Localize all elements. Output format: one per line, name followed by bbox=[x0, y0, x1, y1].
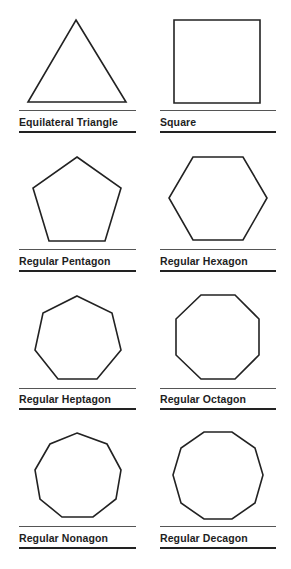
divider-thick bbox=[160, 131, 276, 133]
divider-thin bbox=[19, 110, 136, 111]
polygon-diagram bbox=[0, 0, 291, 569]
divider-thin bbox=[160, 526, 276, 527]
regular-nonagon-shape bbox=[35, 433, 121, 517]
regular-pentagon-shape bbox=[33, 157, 121, 241]
divider-thick bbox=[19, 131, 136, 133]
label-regular-nonagon: Regular Nonagon bbox=[19, 532, 108, 544]
divider-thick bbox=[160, 547, 276, 549]
label-regular-decagon: Regular Decagon bbox=[160, 532, 248, 544]
regular-heptagon-shape bbox=[35, 296, 121, 379]
divider-thin bbox=[19, 526, 136, 527]
label-regular-hexagon: Regular Hexagon bbox=[160, 255, 248, 267]
label-equilateral-triangle: Equilateral Triangle bbox=[19, 116, 118, 128]
divider-thin bbox=[160, 110, 276, 111]
regular-decagon-shape bbox=[173, 432, 263, 519]
divider-thick bbox=[19, 270, 136, 272]
label-regular-pentagon: Regular Pentagon bbox=[19, 255, 110, 267]
divider-thick bbox=[160, 270, 276, 272]
regular-octagon-shape bbox=[176, 295, 259, 379]
label-regular-octagon: Regular Octagon bbox=[160, 393, 246, 405]
square-shape bbox=[174, 20, 260, 103]
label-regular-heptagon: Regular Heptagon bbox=[19, 393, 111, 405]
regular-hexagon-shape bbox=[169, 157, 267, 240]
divider-thin bbox=[19, 388, 136, 389]
label-square: Square bbox=[160, 116, 196, 128]
equilateral-triangle-shape bbox=[28, 20, 126, 102]
divider-thick bbox=[160, 408, 276, 410]
divider-thick bbox=[19, 408, 136, 410]
divider-thin bbox=[19, 249, 136, 250]
divider-thin bbox=[160, 249, 276, 250]
divider-thin bbox=[160, 388, 276, 389]
divider-thick bbox=[19, 547, 136, 549]
